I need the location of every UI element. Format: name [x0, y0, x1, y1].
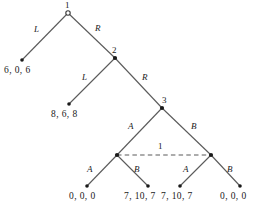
decision-node-4-marker [115, 153, 119, 157]
edge-n3-n5 [162, 108, 211, 155]
payoff-label-t3: 0, 0, 0 [69, 192, 96, 202]
edge-label-n3-n4-A: A [128, 122, 134, 131]
edge-n2-n3 [115, 58, 162, 108]
edge-n1-t1 [22, 13, 68, 60]
edge-n5-t6 [211, 155, 240, 186]
edge-label-n1-t1-L: L [34, 25, 39, 34]
edge-n3-n4 [117, 108, 162, 155]
decision-node-3-marker [160, 106, 164, 110]
edge-n4-t4 [117, 155, 148, 186]
terminal-node-marker [67, 102, 71, 106]
decision-node-2-marker [113, 56, 117, 60]
edge-label-n2-t2-L: L [82, 73, 87, 82]
payoff-label-t2: 8, 6, 8 [51, 110, 78, 120]
edge-label-n5-t6-B: B [227, 165, 233, 174]
payoff-label-t5: 7, 10, 7 [161, 192, 193, 202]
edge-label-n1-n2-R: R [95, 24, 101, 33]
decision-node-5-marker [209, 153, 213, 157]
payoff-label-t4: 7, 10, 7 [124, 192, 156, 202]
node-label-2: 2 [112, 46, 117, 55]
edge-label-n4-t4-B: B [134, 165, 140, 174]
game-tree-figure: 1 2 3 1 L R L R A B A B A B 6, 0, 6 8, 6… [0, 0, 256, 215]
edge-n2-t2 [69, 58, 115, 104]
edge-label-n4-t3-A: A [87, 165, 93, 174]
node-label-1: 1 [65, 1, 70, 10]
terminal-node-marker [85, 184, 89, 188]
terminal-node-marker [20, 58, 24, 62]
payoff-label-t6: 0, 0, 0 [220, 192, 247, 202]
edge-n1-n2 [68, 13, 115, 58]
decision-node-1-marker [66, 11, 70, 15]
edge-label-n3-n5-B: B [191, 122, 197, 131]
edge-label-n2-n3-R: R [142, 73, 148, 82]
terminal-node-marker [178, 184, 182, 188]
information-set-label-1: 1 [158, 142, 163, 151]
terminal-node-marker [238, 184, 242, 188]
node-label-3: 3 [162, 96, 167, 105]
payoff-label-t1: 6, 0, 6 [4, 66, 31, 76]
edge-label-n5-t5-A: A [183, 165, 189, 174]
terminal-node-marker [146, 184, 150, 188]
